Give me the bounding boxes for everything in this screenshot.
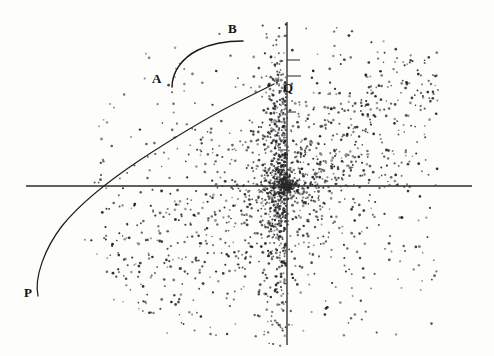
label-a: A [152, 72, 162, 85]
plot-canvas [0, 0, 494, 356]
label-p: P [24, 286, 32, 299]
label-q: Q [283, 81, 293, 94]
axes-group [26, 22, 472, 345]
label-b: B [228, 22, 237, 35]
scatter-figure: A B P Q [0, 0, 494, 356]
scatter-point-layer [84, 23, 439, 347]
ab-arc [172, 41, 243, 87]
